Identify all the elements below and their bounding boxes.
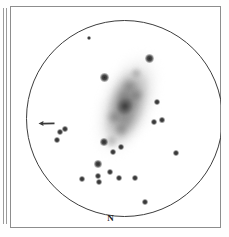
star-point: [100, 73, 108, 81]
star-point: [100, 138, 108, 146]
target-arrow-icon: [38, 120, 55, 127]
cardinal-north-text: N: [107, 213, 114, 223]
star-point: [145, 54, 154, 63]
star-point: [62, 126, 67, 131]
sky-field: [10, 6, 221, 228]
star-point: [110, 149, 116, 155]
star-point: [96, 179, 102, 185]
star-point: [159, 117, 164, 122]
star-point: [54, 137, 60, 143]
star-point: [116, 175, 122, 181]
figure-plate: N: [0, 0, 229, 237]
cardinal-direction-label: N: [0, 213, 229, 223]
adjacent-plate-edge: [3, 8, 7, 224]
